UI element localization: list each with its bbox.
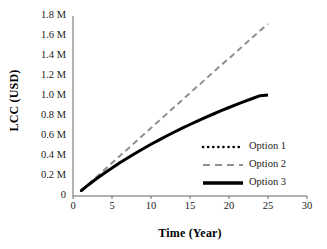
x-tick-label: 10 <box>137 200 165 211</box>
x-tick-label: 0 <box>59 200 87 211</box>
legend-label-option-2: Option 2 <box>249 158 286 169</box>
x-tick-label: 15 <box>176 200 204 211</box>
x-tick-label: 30 <box>293 200 321 211</box>
x-axis-title: Time (Year) <box>73 226 307 241</box>
legend-label-option-3: Option 3 <box>249 176 286 187</box>
x-tick-label: 25 <box>254 200 282 211</box>
legend-label-option-1: Option 1 <box>249 140 286 151</box>
y-tick-label: 1.0 M <box>22 89 66 100</box>
y-axis-title: LCC (USD) <box>7 56 22 146</box>
y-tick-label: 1.4 M <box>22 49 66 60</box>
x-tick-label: 20 <box>215 200 243 211</box>
y-tick-label: 0 <box>22 189 66 200</box>
x-tick-label: 5 <box>98 200 126 211</box>
y-tick-label: 0.6 M <box>22 129 66 140</box>
y-tick-label: 0.2 M <box>22 169 66 180</box>
series-line-option-1 <box>81 95 268 191</box>
y-tick-label: 1.6 M <box>22 29 66 40</box>
legend-swatches <box>203 147 243 183</box>
y-tick-label: 1.8 M <box>22 9 66 20</box>
y-tick-label: 0.8 M <box>22 109 66 120</box>
y-tick-label: 0.4 M <box>22 149 66 160</box>
y-tick-label: 1.2 M <box>22 69 66 80</box>
lcc-line-chart: LCC (USD) Time (Year) 00.2 M0.4 M0.6 M0.… <box>0 0 327 249</box>
series-line-option-3 <box>81 95 268 191</box>
